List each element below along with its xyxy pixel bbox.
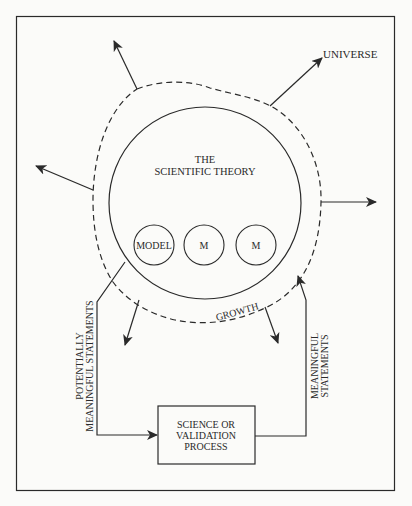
- growth-label: GROWTH: [214, 300, 259, 323]
- theory-label-line2: SCIENTIFIC THEORY: [154, 166, 255, 177]
- left-flow-label-line2: MEANINGFUL STATEMENTS: [84, 300, 95, 431]
- model-m-label-2: M: [252, 240, 261, 251]
- growth-arrow-top-left: [114, 41, 137, 89]
- growth-arrow-bottom-right: [265, 307, 278, 343]
- flow-line-from-process: [255, 276, 306, 436]
- flow-line-to-process: [97, 262, 157, 435]
- model-label: MODEL: [136, 240, 172, 251]
- process-label-line1: SCIENCE OR: [177, 419, 235, 430]
- universe-boundary-dashed: [93, 82, 321, 323]
- process-label-line2: VALIDATION: [176, 430, 236, 441]
- growth-arrow-bottom-left: [125, 300, 139, 345]
- scientific-theory-circle: [109, 107, 301, 299]
- right-flow-label: MEANINGFUL STATEMENTS: [309, 333, 330, 399]
- scientific-theory-diagram: UNIVERSE THE SCIENTIFIC THEORY MODEL M M…: [0, 0, 412, 506]
- left-flow-label: POTENTIALLY MEANINGFUL STATEMENTS: [74, 300, 95, 431]
- universe-label: UNIVERSE: [323, 48, 378, 60]
- growth-arrow-left: [36, 166, 93, 190]
- process-label-line3: PROCESS: [184, 441, 227, 452]
- right-flow-label-line2: STATEMENTS: [319, 334, 330, 397]
- model-m-label-1: M: [200, 240, 209, 251]
- theory-label-line1: THE: [195, 154, 215, 165]
- growth-arrow-top-right: [270, 58, 322, 106]
